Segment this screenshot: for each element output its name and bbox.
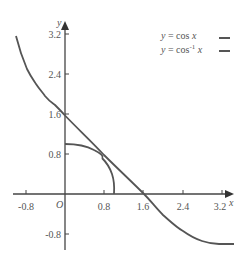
legend: y = cos x y = cos-1 x: [160, 30, 230, 55]
x-axis-label: x: [228, 197, 234, 208]
y-tick-label: 0.8: [49, 149, 62, 160]
x-tick-label: 1.6: [137, 201, 150, 212]
legend-label-arccos: y = cos-1 x: [160, 43, 203, 55]
x-tick-label: 3.2: [214, 201, 227, 212]
y-tick-label: 3.2: [49, 29, 62, 40]
legend-label-cos: y = cos x: [160, 30, 197, 41]
chart-container: -0.8 0.8 1.6 2.4 3.2 3.2 2.4 1.6 0.8 -0.…: [0, 0, 247, 258]
chart-svg: -0.8 0.8 1.6 2.4 3.2 3.2 2.4 1.6 0.8 -0.…: [0, 0, 247, 258]
y-axis-label: y: [56, 17, 62, 28]
x-tick-label: 0.8: [98, 201, 111, 212]
x-tick-label: 2.4: [177, 201, 190, 212]
y-tick-label: 1.6: [49, 109, 62, 120]
y-tick-label: 2.4: [49, 69, 62, 80]
series-arccos-x-curve: [65, 144, 114, 194]
x-tick-labels: -0.8 0.8 1.6 2.4 3.2: [18, 201, 226, 212]
series-cos-x-curve: [16, 36, 234, 244]
origin-label: O: [56, 199, 63, 210]
y-axis-arrow-icon: [61, 21, 69, 30]
x-tick-label: -0.8: [18, 201, 34, 212]
y-tick-label: -0.8: [45, 229, 61, 240]
axes: [13, 26, 230, 250]
